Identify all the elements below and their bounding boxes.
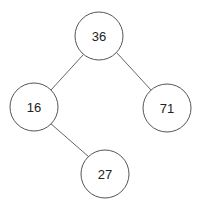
edge-36-71 (117, 53, 151, 90)
edge-16-27 (50, 123, 89, 157)
node-27: 27 (81, 150, 129, 198)
node-16: 16 (10, 83, 58, 131)
edge-36-16 (51, 55, 83, 90)
node-label: 71 (160, 101, 174, 116)
node-label: 16 (27, 100, 41, 115)
node-36: 36 (75, 12, 123, 60)
tree-diagram: 36 16 71 27 (0, 0, 200, 209)
node-71: 71 (143, 84, 191, 132)
node-label: 36 (92, 29, 106, 44)
node-label: 27 (98, 167, 112, 182)
